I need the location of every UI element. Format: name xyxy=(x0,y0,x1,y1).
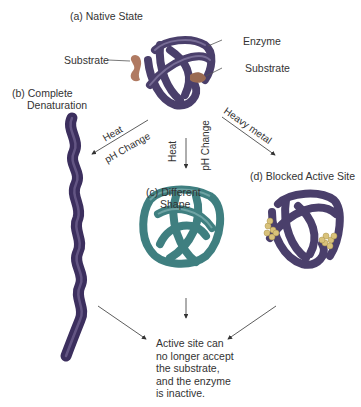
conclusion-line: the substrate, xyxy=(156,362,266,375)
conclusion-line: and the enzyme xyxy=(156,375,266,388)
different-shape-label-1: (c) Different xyxy=(146,186,201,198)
complete-denaturation-label-1: (b) Complete xyxy=(12,87,73,99)
blocked-active-site-label: (d) Blocked Active Site xyxy=(250,170,355,182)
conclusion-line: is inactive. xyxy=(156,387,266,400)
arrow-from-blocked-site xyxy=(228,306,276,339)
conclusion-text: Active site can no longer accept the sub… xyxy=(156,337,266,400)
complete-denaturation-label-2: Denaturation xyxy=(27,99,87,111)
blocked-enzyme-icon xyxy=(264,194,340,265)
denatured-strand-icon xyxy=(66,118,82,356)
enzyme-label: Enzyme xyxy=(243,35,281,47)
different-shape-label-2: Shape xyxy=(160,198,190,210)
arrow-middle-label-1: Heat xyxy=(167,141,178,162)
arrow-from-denaturation xyxy=(98,306,146,339)
conclusion-line: no longer accept xyxy=(156,350,266,363)
native-enzyme-icon xyxy=(131,40,212,105)
native-state-title: (a) Native State xyxy=(70,10,143,22)
arrow-middle-label-2: pH Change xyxy=(200,120,211,171)
substrate-left-label: Substrate xyxy=(64,54,109,66)
substrate-left-leader xyxy=(108,60,130,61)
enzyme-leader xyxy=(208,40,222,46)
substrate-right-label: Substrate xyxy=(245,62,290,74)
conclusion-line: Active site can xyxy=(156,337,266,350)
